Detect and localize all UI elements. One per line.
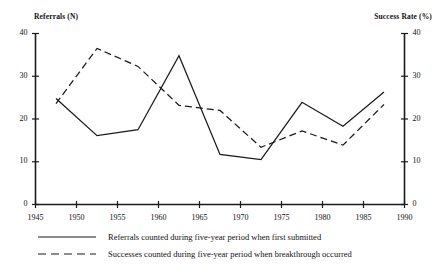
legend-label-successes: Successes counted during five-year perio… (108, 249, 352, 259)
x-tick-label: 1975 (262, 213, 302, 222)
y-tick-label-right: 10 (413, 156, 435, 165)
x-tick-label: 1965 (180, 213, 220, 222)
y-tick-label-left: 10 (6, 156, 28, 165)
x-tick-label: 1960 (139, 213, 179, 222)
x-tick-label: 1970 (221, 213, 261, 222)
y-tick-label-left: 0 (6, 199, 28, 208)
x-tick-label: 1990 (385, 213, 425, 222)
legend-item-successes: Successes counted during five-year perio… (36, 246, 352, 262)
legend-dashed-line-icon (36, 249, 98, 259)
legend-solid-line-icon (36, 232, 98, 242)
x-tick-label: 1945 (16, 213, 56, 222)
y-tick-label-right: 40 (413, 28, 435, 37)
legend-item-referrals: Referrals counted during five-year perio… (36, 229, 321, 245)
x-tick-label: 1980 (303, 213, 343, 222)
y-tick-label-right: 30 (413, 71, 435, 80)
legend-label-referrals: Referrals counted during five-year perio… (108, 232, 321, 242)
x-tick-label: 1985 (344, 213, 384, 222)
chart-figure: Referrals (N) Success Rate (%) 404030302… (0, 0, 440, 269)
y-tick-label-left: 40 (6, 28, 28, 37)
x-tick-label: 1950 (57, 213, 97, 222)
y-tick-label-left: 30 (6, 71, 28, 80)
y-tick-label-right: 0 (413, 199, 435, 208)
y-tick-label-right: 20 (413, 114, 435, 123)
series-line-referrals (56, 56, 384, 160)
series-line-successes (56, 48, 384, 147)
y-tick-label-left: 20 (6, 114, 28, 123)
x-tick-label: 1955 (98, 213, 138, 222)
